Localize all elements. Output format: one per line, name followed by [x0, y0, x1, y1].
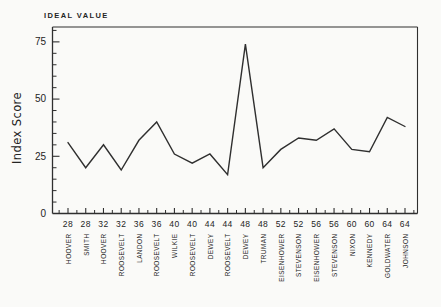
candidate-name-label: EISENHOWER	[278, 234, 285, 282]
x-year-label: 64	[400, 219, 410, 229]
y-axis-title: Index Score	[10, 92, 24, 164]
x-year-label: 44	[222, 219, 232, 229]
candidate-name-label: HOOVER	[100, 234, 107, 264]
candidate-name-label: JOHNSON	[402, 234, 409, 268]
ideal-value-label: IDEAL VALUE	[44, 11, 109, 20]
candidate-name-label: ROOSEVELT	[224, 234, 231, 277]
candidate-name-label: LANDON	[136, 234, 143, 263]
x-year-label: 40	[187, 219, 197, 229]
candidate-name-label: STEVENSON	[331, 234, 338, 277]
x-year-label: 56	[311, 219, 321, 229]
x-year-label: 40	[169, 219, 179, 229]
x-year-label: 52	[293, 219, 303, 229]
x-year-label: 32	[116, 219, 126, 229]
candidate-name-label: ROOSEVELT	[118, 234, 125, 277]
candidate-name-label: NIXON	[349, 234, 356, 257]
x-year-label: 52	[276, 219, 286, 229]
y-tick-label: 75	[35, 36, 47, 47]
chart-plot-area: 025507528HOOVER28SMITH32HOOVER32ROOSEVEL…	[35, 27, 418, 282]
x-year-label: 48	[258, 219, 268, 229]
candidate-name-label: WILKIE	[171, 234, 178, 258]
x-year-label: 36	[152, 219, 162, 229]
x-year-label: 56	[329, 219, 339, 229]
candidate-name-label: STEVENSON	[295, 234, 302, 277]
candidate-name-label: GOLDWATER	[384, 234, 391, 279]
x-year-label: 44	[205, 219, 215, 229]
candidate-name-label: HOOVER	[65, 234, 72, 264]
x-year-label: 64	[382, 219, 392, 229]
index-score-line-chart: IDEAL VALUE Index Score 025507528HOOVER2…	[0, 0, 441, 307]
candidate-name-label: EISENHOWER	[313, 234, 320, 282]
candidate-name-label: TRUMAN	[260, 234, 267, 264]
candidate-name-label: SMITH	[83, 234, 90, 256]
candidate-name-label: KENNEDY	[366, 233, 373, 267]
x-year-label: 28	[81, 219, 91, 229]
figure: IDEAL VALUE Index Score 025507528HOOVER2…	[0, 0, 441, 307]
x-year-label: 36	[134, 219, 144, 229]
x-year-label: 48	[240, 219, 250, 229]
y-tick-label: 0	[40, 208, 46, 219]
candidate-name-label: DEWEY	[207, 233, 214, 259]
y-tick-label: 50	[35, 93, 47, 104]
x-year-label: 60	[364, 219, 374, 229]
x-year-label: 32	[98, 219, 108, 229]
candidate-name-label: DEWEY	[242, 233, 249, 259]
index-score-series-line	[68, 44, 405, 174]
candidate-name-label: ROOSEVELT	[189, 234, 196, 277]
candidate-name-label: ROOSEVELT	[153, 234, 160, 277]
y-tick-label: 25	[35, 151, 47, 162]
x-year-label: 60	[347, 219, 357, 229]
x-year-label: 28	[63, 219, 73, 229]
